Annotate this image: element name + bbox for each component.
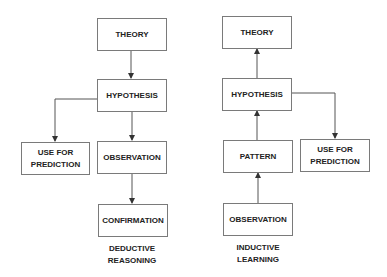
- inductive-theory-label: THEORY: [240, 27, 273, 39]
- inductive-hypothesis-label: HYPOTHESIS: [231, 89, 283, 101]
- inductive-pattern-box: PATTERN: [223, 140, 293, 173]
- deductive-observation-box: OBSERVATION: [97, 141, 167, 174]
- deductive-hypothesis-label: HYPOTHESIS: [106, 90, 158, 102]
- inductive-prediction-label: USE FOR PREDICTION: [310, 144, 359, 168]
- inductive-pattern-label: PATTERN: [240, 151, 277, 163]
- inductive-prediction-box: USE FOR PREDICTION: [300, 139, 370, 172]
- inductive-caption: INDUCTIVE LEARNING: [218, 242, 298, 266]
- deductive-observation-label: OBSERVATION: [103, 152, 160, 164]
- deductive-confirmation-box: CONFIRMATION: [98, 204, 168, 237]
- deductive-theory-box: THEORY: [97, 18, 167, 51]
- deductive-caption: DEDUCTIVE REASONING: [92, 243, 172, 267]
- deductive-theory-label: THEORY: [115, 29, 148, 41]
- inductive-observation-label: OBSERVATION: [229, 214, 286, 226]
- inductive-theory-box: THEORY: [222, 16, 292, 49]
- deductive-confirmation-label: CONFIRMATION: [102, 215, 164, 227]
- deductive-prediction-box: USE FOR PREDICTION: [21, 142, 90, 175]
- deductive-prediction-label: USE FOR PREDICTION: [31, 147, 80, 171]
- inductive-hypothesis-box: HYPOTHESIS: [222, 78, 292, 111]
- deductive-hypothesis-box: HYPOTHESIS: [97, 79, 167, 112]
- inductive-observation-box: OBSERVATION: [223, 203, 293, 236]
